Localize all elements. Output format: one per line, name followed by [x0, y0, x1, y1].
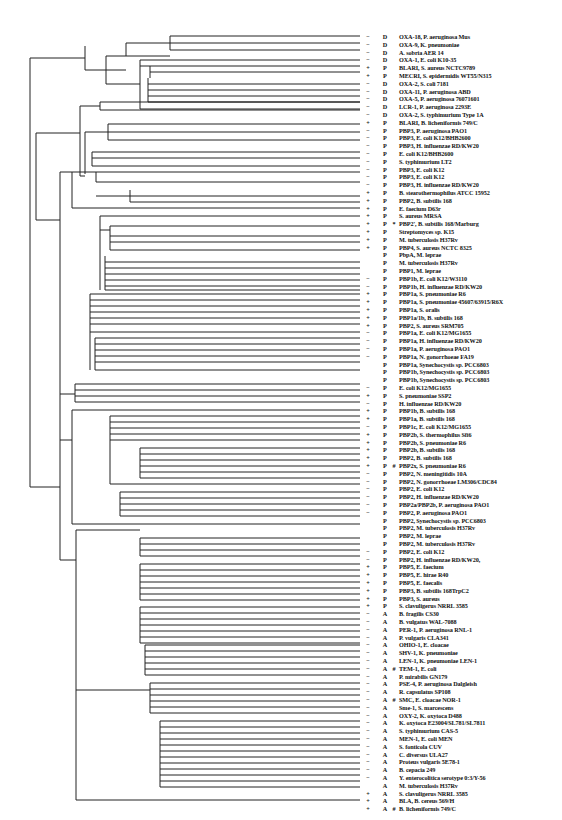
leaf-name: S. typhimurium CAS-5 [399, 727, 458, 734]
leaf-class: P [381, 540, 389, 547]
leaf-name: BLA, B. cereus 569/H [399, 797, 454, 804]
leaf-mark: # [391, 665, 397, 672]
leaf-name: PBP1b, E. coli K12/W3110 [399, 275, 467, 282]
leaf-class: A [381, 657, 389, 664]
leaf-class: P [381, 548, 389, 555]
leaf-labels: −DOXA-18, P. aeruginosa Mus−DOXA-9, K. p… [0, 0, 562, 820]
leaf-sign: − [364, 485, 372, 492]
leaf-sign: + [364, 236, 372, 243]
leaf-sign: + [364, 72, 372, 79]
leaf-class: P [381, 166, 389, 173]
leaf-sign: − [364, 758, 372, 765]
leaf-sign: + [364, 298, 372, 305]
leaf-name: PBP1a, P. aeruginosa PAO1 [399, 345, 470, 352]
leaf-name: K. oxytoca E23004/SL781/SL7811 [399, 719, 485, 726]
leaf-name: PBP5, E. faecalis [399, 579, 442, 586]
leaf-class: P [381, 236, 389, 243]
leaf-name: OXA-1, E. coli K10-35 [399, 56, 456, 63]
leaf-name: PBP2, M. tuberculosis H37Rv [399, 540, 475, 547]
leaf-name: TEM-1, E. coli [399, 665, 436, 672]
leaf-class: P [381, 579, 389, 586]
leaf-name: PBP1, M. leprae [399, 267, 441, 274]
leaf-name: PBP1a, S. oralis [399, 306, 440, 313]
leaf-name: E. faecium D63r [399, 205, 441, 212]
leaf-name: PBP3, E. coli K12/BHB2600 [399, 134, 471, 141]
leaf-sign: − [364, 751, 372, 758]
leaf-sign: + [364, 290, 372, 297]
leaf-name: LCR-1, P. aeruginosa 2293E [399, 103, 471, 110]
leaf-class: P [381, 423, 389, 430]
leaf-sign: − [364, 134, 372, 141]
leaf-mark: # [391, 805, 397, 812]
leaf-sign: − [364, 400, 372, 407]
leaf-class: P [381, 602, 389, 609]
leaf-name: PBP2, H. influenzae RD/KW20 [399, 493, 479, 500]
leaf-name: PBP2, P. aeruginosa PAO1 [399, 509, 467, 516]
leaf-sign: + [364, 579, 372, 586]
leaf-name: PBP1b, B. subtilis 168 [399, 407, 455, 414]
leaf-sign: − [364, 384, 372, 391]
leaf-class: A [381, 758, 389, 765]
leaf-name: PBP2, N. meningitidis 10A [399, 470, 467, 477]
leaf-sign: + [364, 595, 372, 602]
leaf-sign: − [364, 283, 372, 290]
leaf-sign: + [364, 228, 372, 235]
leaf-sign: + [364, 220, 372, 227]
leaf-name: PBP3, S. aureus [399, 595, 440, 602]
leaf-class: D [381, 49, 389, 56]
leaf-class: D [381, 33, 389, 40]
leaf-class: P [381, 400, 389, 407]
leaf-sign: + [364, 189, 372, 196]
leaf-sign: − [364, 166, 372, 173]
leaf-sign: + [364, 797, 372, 804]
leaf-sign: − [364, 33, 372, 40]
leaf-mark: * [391, 220, 397, 227]
leaf-class: P [381, 197, 389, 204]
leaf-name: M. tuberculosis H37Rv [399, 259, 458, 266]
leaf-class: A [381, 712, 389, 719]
leaf-sign: + [364, 314, 372, 321]
leaf-class: P [381, 439, 389, 446]
leaf-sign: − [364, 649, 372, 656]
leaf-sign: − [364, 49, 372, 56]
leaf-name: PBP2', B. subtilis 168/Marburg [399, 220, 479, 227]
leaf-sign: − [364, 673, 372, 680]
leaf-sign: − [364, 704, 372, 711]
leaf-sign: + [364, 205, 372, 212]
leaf-class: P [381, 563, 389, 570]
leaf-name: PBP3, B. subtilis 168TrpC2 [399, 587, 469, 594]
leaf-class: P [381, 158, 389, 165]
leaf-sign: − [364, 329, 372, 336]
leaf-name: OXA-11, P. aeruginosa ABD [399, 88, 471, 95]
leaf-name: B. fragilis CS30 [399, 610, 439, 617]
leaf-class: P [381, 501, 389, 508]
leaf-class: P [381, 587, 389, 594]
leaf-name: PBP2x, S. pneumoniae R6 [399, 462, 466, 469]
leaf-name: C. diversus ULA27 [399, 751, 448, 758]
leaf-sign: − [364, 735, 372, 742]
leaf-name: S. aureus MRSA [399, 212, 442, 219]
leaf-sign: − [364, 626, 372, 633]
leaf-name: H. influenzae RD/KW20 [399, 400, 461, 407]
leaf-name: P. vulgaris CLA341 [399, 634, 449, 641]
leaf-name: PBP3, P. aeruginosa PAO1 [399, 127, 467, 134]
leaf-class: P [381, 290, 389, 297]
leaf-class: P [381, 150, 389, 157]
leaf-class: P [381, 64, 389, 71]
leaf-class: A [381, 782, 389, 789]
leaf-class: A [381, 626, 389, 633]
leaf-class: P [381, 361, 389, 368]
leaf-sign: − [364, 548, 372, 555]
leaf-sign: − [364, 665, 372, 672]
leaf-name: A. sobria AER 14 [399, 49, 443, 56]
leaf-name: LEN-1, K. pneumoniae LEN-1 [399, 657, 477, 664]
leaf-class: A [381, 680, 389, 687]
leaf-class: P [381, 127, 389, 134]
leaf-sign: + [364, 446, 372, 453]
leaf-sign: − [364, 634, 372, 641]
leaf-class: P [381, 275, 389, 282]
leaf-class: A [381, 790, 389, 797]
leaf-class: A [381, 774, 389, 781]
leaf-sign: − [364, 493, 372, 500]
leaf-class: A [381, 673, 389, 680]
